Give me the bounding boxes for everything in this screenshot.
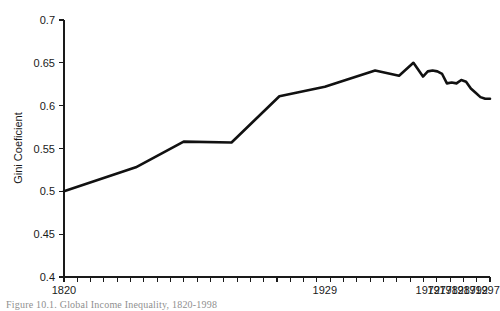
x-tick-label: 1820: [52, 284, 76, 296]
y-tick-label: 0.65: [34, 57, 55, 69]
gini-coefficient-line-chart: 0.70.650.60.550.50.450.4 182019291972197…: [0, 0, 500, 311]
x-tick-label: 1929: [313, 284, 337, 296]
y-axis-title: Gini Coeficient: [12, 112, 24, 184]
figure-container: 0.70.650.60.550.50.450.4 182019291972197…: [0, 0, 500, 311]
figure-caption: Figure 10.1. Global Income Inequality, 1…: [6, 299, 486, 310]
y-tick-label: 0.7: [40, 14, 55, 26]
y-tick-label: 0.55: [34, 143, 55, 155]
y-tick-label: 0.5: [40, 185, 55, 197]
y-axis-label-group: 0.70.650.60.550.50.450.4: [34, 14, 55, 283]
x-axis-minor-tick-group: [64, 277, 490, 282]
gini-series-line: [64, 63, 490, 192]
y-tick-label: 0.6: [40, 100, 55, 112]
y-tick-label: 0.4: [40, 271, 55, 283]
x-tick-label: 1997: [475, 284, 499, 296]
y-axis-tick-group: [59, 20, 64, 277]
x-axis-label-group: 18201929197219771982198719921997: [52, 284, 500, 296]
y-tick-label: 0.45: [34, 228, 55, 240]
